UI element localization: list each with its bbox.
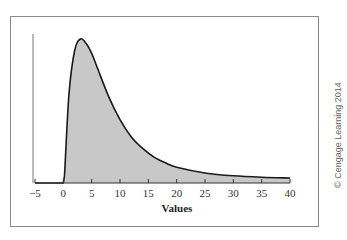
density-chart: −50510152025303540 Values	[0, 0, 347, 240]
x-tick-label: 0	[61, 187, 67, 199]
x-tick-label: 30	[228, 187, 240, 199]
x-tick-label: 40	[285, 187, 297, 199]
plot-area: −50510152025303540	[29, 34, 296, 199]
x-tick-label: 25	[200, 187, 212, 199]
x-axis-label: Values	[162, 202, 193, 214]
copyright-credit: © Cengage Learning 2014	[333, 82, 343, 188]
x-tick-label: 20	[171, 187, 183, 199]
x-tick-label: 5	[89, 187, 95, 199]
x-tick-label: 10	[115, 187, 127, 199]
x-tick-label: 35	[256, 187, 268, 199]
x-tick-label: −5	[29, 187, 41, 199]
x-tick-label: 15	[143, 187, 155, 199]
